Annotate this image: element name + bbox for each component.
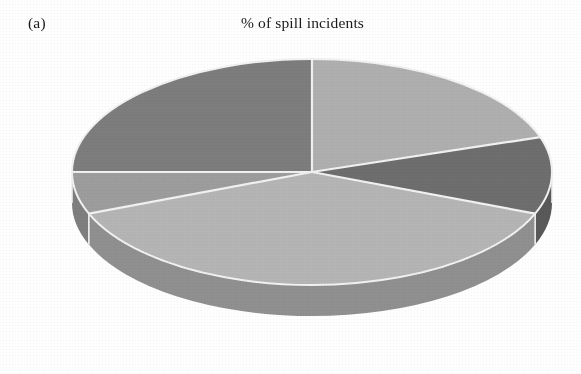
pie-slice: [72, 59, 312, 172]
pie-chart-3d: [0, 0, 581, 374]
figure-panel-a: (a) % of spill incidents: [0, 0, 581, 374]
